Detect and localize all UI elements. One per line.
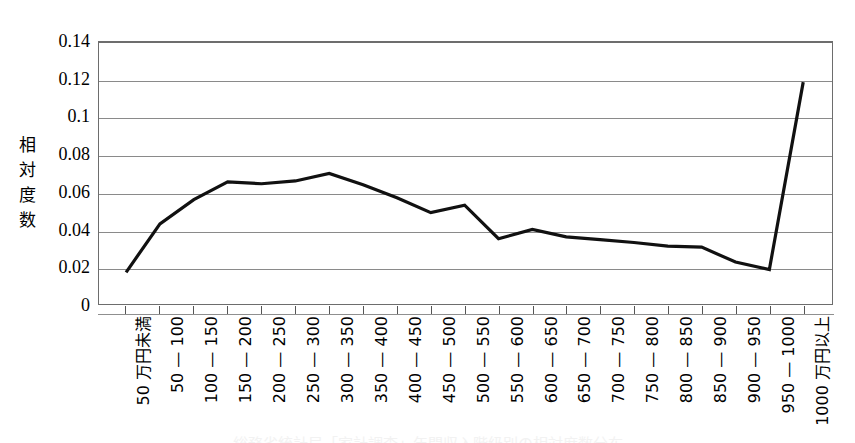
x-axis-label: 850 — 900 bbox=[710, 316, 732, 436]
x-axis-label: 1000 万円以上 bbox=[812, 316, 834, 436]
x-axis-label-text: 700 — 750 bbox=[608, 316, 630, 436]
y-tick-label: 0.12 bbox=[38, 70, 90, 88]
x-axis-label-text: 350 — 400 bbox=[371, 316, 393, 436]
x-axis-label: 150 — 200 bbox=[235, 316, 257, 436]
x-axis-label-text: 800 — 850 bbox=[676, 316, 698, 436]
y-tick-label: 0.04 bbox=[38, 221, 90, 239]
x-axis-label: 450 — 500 bbox=[439, 316, 461, 436]
x-axis-label-text: 950 — 1000 bbox=[778, 316, 800, 436]
x-axis-label: 300 — 350 bbox=[337, 316, 359, 436]
x-axis-label-text: 600 — 650 bbox=[541, 316, 563, 436]
x-axis-category-labels: 50 万円未満50 — 100100 — 150150 — 200200 — 2… bbox=[98, 316, 833, 436]
x-axis-label-text: 450 — 500 bbox=[439, 316, 461, 436]
x-axis-label: 400 — 450 bbox=[405, 316, 427, 436]
x-axis-label-text: 550 — 600 bbox=[507, 316, 529, 436]
x-axis-label-text: 500 — 550 bbox=[473, 316, 495, 436]
y-tick-label: 0.06 bbox=[38, 183, 90, 201]
x-axis-label: 800 — 850 bbox=[676, 316, 698, 436]
x-axis-label-text: 900 — 950 bbox=[744, 316, 766, 436]
x-axis-label: 250 — 300 bbox=[303, 316, 325, 436]
x-axis-label: 550 — 600 bbox=[507, 316, 529, 436]
x-axis-label: 900 — 950 bbox=[744, 316, 766, 436]
y-tick-label: 0.02 bbox=[38, 258, 90, 276]
bottom-caption: 総務省統計局「家計調査」年間収入階級別の相対度数分布 bbox=[0, 436, 855, 443]
x-axis-label-text: 1000 万円以上 bbox=[812, 316, 834, 436]
x-axis-label: 100 — 150 bbox=[201, 316, 223, 436]
x-axis-label-text: 250 — 300 bbox=[303, 316, 325, 436]
x-axis-label-text: 200 — 250 bbox=[269, 316, 291, 436]
x-axis-label: 700 — 750 bbox=[608, 316, 630, 436]
x-axis-label: 50 — 100 bbox=[167, 316, 189, 436]
y-tick-label: 0.08 bbox=[38, 145, 90, 163]
x-axis-label-text: 100 — 150 bbox=[201, 316, 223, 436]
x-axis-label: 750 — 800 bbox=[642, 316, 664, 436]
x-axis-label-text: 150 — 200 bbox=[235, 316, 257, 436]
line-series bbox=[99, 43, 832, 304]
x-axis-label: 200 — 250 bbox=[269, 316, 291, 436]
x-axis-label: 950 — 1000 bbox=[778, 316, 800, 436]
y-tick-label: 0.1 bbox=[38, 107, 90, 125]
series-polyline bbox=[126, 82, 803, 272]
x-axis-label: 500 — 550 bbox=[473, 316, 495, 436]
x-axis-label-text: 300 — 350 bbox=[337, 316, 359, 436]
x-axis-label: 350 — 400 bbox=[371, 316, 393, 436]
chart-figure: 相 対 度 数 0.140.120.10.080.060.040.020 50 … bbox=[0, 0, 855, 443]
plot-area bbox=[98, 41, 833, 305]
x-axis-label: 600 — 650 bbox=[541, 316, 563, 436]
y-tick-label: 0.14 bbox=[38, 32, 90, 50]
x-axis-label: 650 — 700 bbox=[574, 316, 596, 436]
x-axis-label-text: 50 — 100 bbox=[167, 316, 189, 436]
x-axis-label-text: 650 — 700 bbox=[574, 316, 596, 436]
y-tick-label: 0 bbox=[38, 296, 90, 314]
x-axis-label-text: 750 — 800 bbox=[642, 316, 664, 436]
x-axis-label-text: 400 — 450 bbox=[405, 316, 427, 436]
x-axis-label-text: 50 万円未満 bbox=[133, 316, 155, 436]
x-axis-line bbox=[98, 314, 834, 315]
x-axis-label-text: 850 — 900 bbox=[710, 316, 732, 436]
x-axis-label: 50 万円未満 bbox=[133, 316, 155, 436]
y-axis-tick-labels: 0.140.120.10.080.060.040.020 bbox=[38, 0, 90, 443]
